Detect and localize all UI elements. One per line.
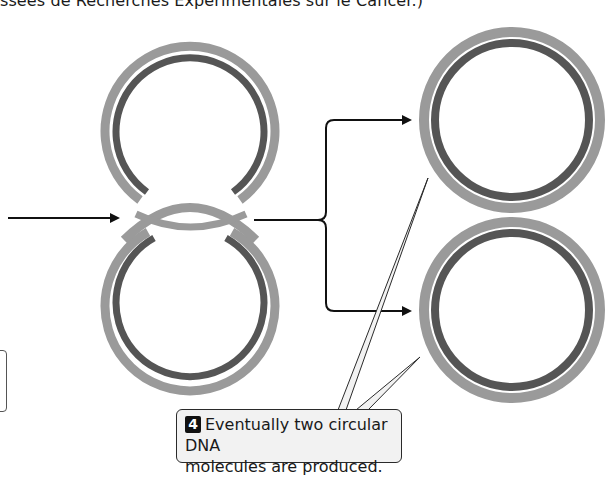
catenane-top-circle xyxy=(105,46,275,200)
step-number-badge: 4 xyxy=(185,416,201,433)
callout-line-1: 4Eventually two circular DNA xyxy=(185,414,393,456)
callout-line-2: molecules are produced. xyxy=(185,456,393,477)
offscreen-callout-edge xyxy=(0,350,7,412)
product-top-circle xyxy=(424,32,600,208)
callout-pointer xyxy=(338,178,428,410)
product-bottom-circle xyxy=(424,222,600,398)
step-4-callout: 4Eventually two circular DNA molecules a… xyxy=(176,409,402,463)
catenane-bottom-circle xyxy=(105,232,275,391)
